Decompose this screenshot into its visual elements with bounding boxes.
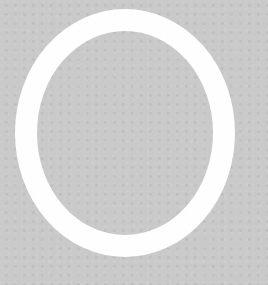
letter-o-glyph bbox=[0, 0, 268, 285]
letter-canvas: O bbox=[0, 0, 268, 285]
